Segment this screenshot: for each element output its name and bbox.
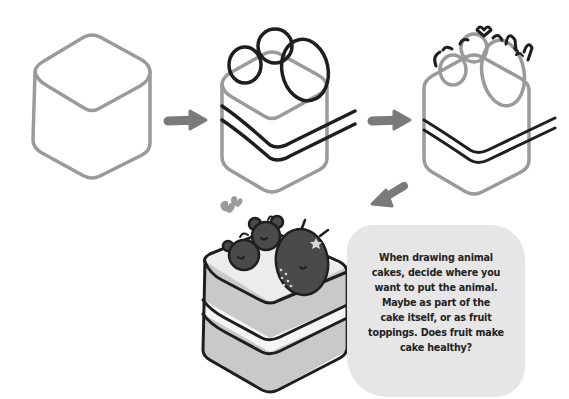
note-line: toppings. Does fruit make [357,325,515,340]
tip-note: When drawing animal cakes, decide where … [347,225,525,397]
drawing-tutorial-page: When drawing animal cakes, decide where … [0,0,569,399]
note-line: cake itself, or as fruit [357,310,515,325]
note-line: When drawing animal [357,250,515,265]
step2-cake [222,29,355,192]
note-line: cake healthy? [357,340,515,355]
heart-icon [220,196,242,213]
step4-final-cake [203,216,347,393]
step3-cake [424,27,555,194]
step1-cube [33,35,150,178]
note-line: cakes, decide where you [357,265,515,280]
note-line: Maybe as part of the [357,295,515,310]
tip-note-text: When drawing animal cakes, decide where … [357,250,515,355]
note-line: want to put the animal. [357,280,515,295]
